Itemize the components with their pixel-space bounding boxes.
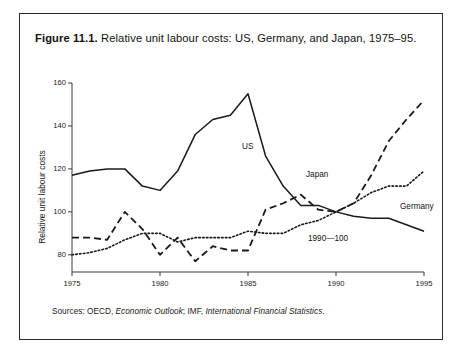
figure-panel: Figure 11.1. Relative unit labour costs:… [19, 13, 443, 340]
plot-wrapper: Relative unit labour costs 8010012014016… [20, 14, 442, 339]
series-label-us: US [242, 142, 253, 151]
series-label-germany: Germany [400, 202, 434, 211]
series-label-japan: Japan [306, 170, 328, 179]
base-year-note: 1990—100 [308, 234, 348, 243]
series-labels-layer: USJapanGermany1990—100 [20, 14, 442, 339]
